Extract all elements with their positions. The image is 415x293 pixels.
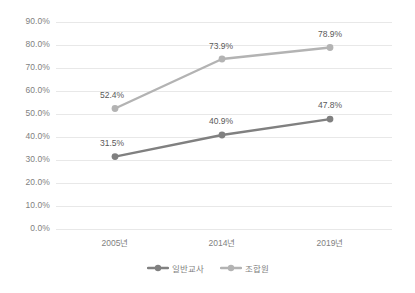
y-axis-tick-40: 40.0% [6, 131, 50, 141]
data-point-teacher-2014 [219, 132, 226, 139]
data-point-teacher-2019 [327, 116, 334, 123]
y-axis-tick-0: 0.0% [6, 223, 50, 233]
y-axis-tick-90: 90.0% [6, 16, 50, 26]
data-point-member-2005 [112, 105, 119, 112]
chart-legend: 일반교사 조합원 [0, 262, 415, 274]
y-axis-tick-50: 50.0% [6, 108, 50, 118]
data-point-teacher-2005 [112, 153, 119, 160]
series-line-member [112, 44, 334, 112]
data-label-member-2014: 73.9% [199, 41, 243, 51]
x-axis-tick-2014: 2014년 [187, 236, 257, 248]
y-axis-tick-10: 10.0% [6, 200, 50, 210]
data-label-member-2019: 78.9% [308, 29, 352, 39]
legend-label-member: 조합원 [245, 262, 269, 274]
legend-label-teacher: 일반교사 [172, 262, 204, 274]
legend-marker-member-icon [220, 263, 242, 273]
data-label-teacher-2014: 40.9% [199, 116, 243, 126]
y-axis-tick-70: 70.0% [6, 62, 50, 72]
y-axis-tick-30: 30.0% [6, 154, 50, 164]
y-axis-tick-80: 80.0% [6, 39, 50, 49]
data-label-teacher-2005: 31.5% [90, 138, 134, 148]
legend-item-teacher[interactable]: 일반교사 [147, 262, 204, 274]
legend-marker-teacher-icon [147, 263, 169, 273]
x-axis-tick-2005: 2005년 [80, 236, 150, 248]
y-axis-tick-60: 60.0% [6, 85, 50, 95]
legend-item-member[interactable]: 조합원 [220, 262, 269, 274]
data-label-member-2005: 52.4% [90, 90, 134, 100]
line-chart: 90.0% 80.0% 70.0% 60.0% 50.0% 40.0% 30.0… [0, 0, 415, 293]
data-label-teacher-2019: 47.8% [308, 100, 352, 110]
y-axis-tick-20: 20.0% [6, 177, 50, 187]
data-point-member-2019 [327, 44, 334, 51]
x-axis-tick-2019: 2019년 [295, 236, 365, 248]
data-point-member-2014 [219, 56, 226, 63]
